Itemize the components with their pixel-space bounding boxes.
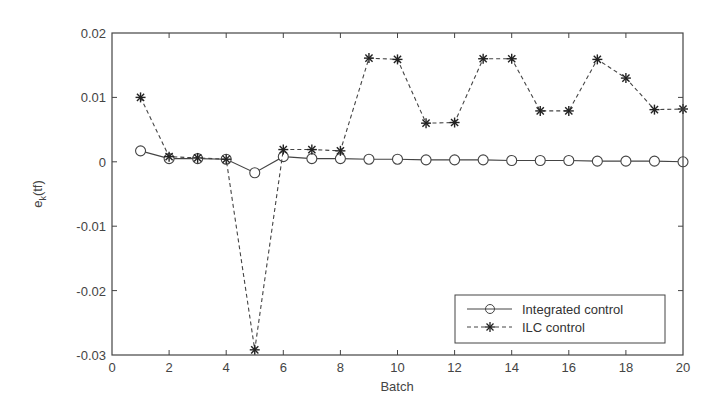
star-marker-icon — [364, 53, 374, 63]
star-marker-icon — [250, 345, 260, 355]
y-axis-label: ek(tf) — [30, 180, 48, 208]
y-axis-label-main: e — [30, 201, 45, 208]
svg-text:ek(tf): ek(tf) — [30, 180, 48, 208]
x-tick-label: 2 — [165, 360, 172, 375]
y-tick-label: 0.01 — [81, 90, 106, 105]
star-marker-icon — [164, 152, 174, 162]
y-tick-label: 0 — [99, 155, 106, 170]
star-marker-icon — [478, 54, 488, 64]
star-marker-icon — [649, 105, 659, 115]
x-tick-label: 0 — [108, 360, 115, 375]
star-marker-icon — [221, 154, 231, 164]
circle-marker-icon — [393, 154, 403, 164]
line-chart: 024681012141618200.020.010-0.01-0.02-0.0… — [0, 0, 720, 414]
series-integrated-control — [136, 146, 688, 178]
x-tick-label: 10 — [390, 360, 404, 375]
star-marker-icon — [307, 145, 317, 155]
x-tick-label: 14 — [504, 360, 518, 375]
circle-marker-icon — [564, 156, 574, 166]
circle-marker-icon — [478, 155, 488, 165]
star-marker-icon — [450, 118, 460, 128]
circle-marker-icon — [450, 155, 460, 165]
star-marker-icon — [278, 145, 288, 155]
circle-marker-icon — [535, 156, 545, 166]
y-tick-label: -0.03 — [76, 348, 106, 363]
circle-marker-icon — [364, 154, 374, 164]
star-marker-icon — [136, 92, 146, 102]
x-axis-label: Batch — [380, 379, 413, 394]
y-tick-label: -0.01 — [76, 219, 106, 234]
circle-marker-icon — [136, 146, 146, 156]
star-marker-icon — [393, 54, 403, 64]
circle-marker-icon — [250, 168, 260, 178]
x-tick-label: 8 — [337, 360, 344, 375]
circle-marker-icon — [421, 155, 431, 165]
circle-marker-icon — [592, 156, 602, 166]
circle-marker-icon — [507, 156, 517, 166]
star-marker-icon — [621, 73, 631, 83]
x-tick-label: 16 — [562, 360, 576, 375]
legend: Integrated control ILC control — [455, 295, 665, 343]
star-marker-icon — [485, 322, 495, 332]
y-axis-label-paren: (tf) — [30, 180, 45, 196]
y-tick-label: -0.02 — [76, 284, 106, 299]
y-tick-label: 0.02 — [81, 26, 106, 41]
svg-text:Integrated control: Integrated control — [522, 302, 623, 317]
star-marker-icon — [592, 54, 602, 64]
circle-marker-icon — [649, 156, 659, 166]
x-tick-label: 12 — [447, 360, 461, 375]
circle-marker-icon — [621, 156, 631, 166]
star-marker-icon — [193, 153, 203, 163]
x-tick-label: 4 — [223, 360, 230, 375]
x-tick-label: 18 — [619, 360, 633, 375]
star-marker-icon — [564, 106, 574, 116]
svg-text:ILC control: ILC control — [522, 320, 585, 335]
circle-marker-icon — [307, 154, 317, 164]
x-tick-label: 6 — [280, 360, 287, 375]
star-marker-icon — [421, 118, 431, 128]
star-marker-icon — [535, 106, 545, 116]
star-marker-icon — [335, 146, 345, 156]
star-marker-icon — [507, 54, 517, 64]
x-tick-label: 20 — [676, 360, 690, 375]
